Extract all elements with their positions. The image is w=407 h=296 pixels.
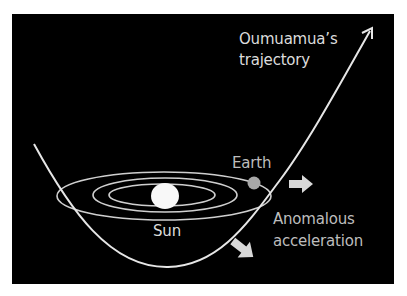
oumuamua-diagram: [0, 0, 407, 296]
sun-icon: [151, 183, 179, 209]
anomalous-label-line1: Anomalous: [273, 210, 355, 229]
trajectory-label-line2: trajectory: [239, 51, 310, 70]
earth-icon: [248, 177, 261, 190]
arrow-right-icon: [289, 175, 313, 193]
trajectory-label-line1: Oumuamua’s: [239, 30, 338, 49]
earth-label: Earth: [232, 154, 271, 173]
anomalous-label-line2: acceleration: [273, 232, 363, 251]
sun-label: Sun: [153, 222, 181, 241]
